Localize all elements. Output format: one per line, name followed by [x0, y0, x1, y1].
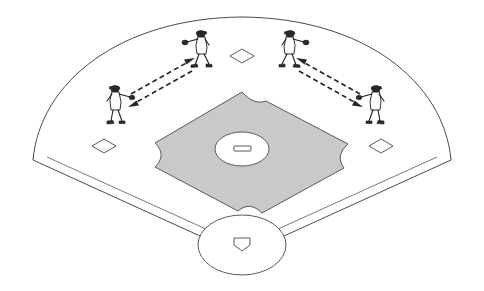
pitching-rubber	[234, 146, 251, 151]
baseball-field-diagram: Baseball Field Throwing Drill Diagram	[0, 0, 484, 291]
